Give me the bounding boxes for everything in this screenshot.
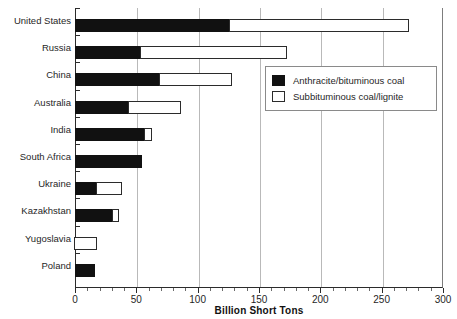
legend-entry-subbituminous: Subbituminous coal/lignite [272, 88, 430, 104]
bar-segment-anthracite [75, 19, 230, 32]
bar-segment-anthracite [75, 182, 97, 195]
x-axis-tick-major [136, 288, 137, 293]
x-axis-tick-major [75, 288, 76, 293]
y-axis-label: Yugoslavia [0, 234, 71, 244]
chart-legend: Anthracite/bituminous coal Subbituminous… [265, 66, 437, 111]
x-axis-tick-label: 250 [362, 294, 402, 305]
stacked-bar [75, 155, 142, 168]
x-axis-tick-minor [185, 288, 186, 291]
y-axis-tick [75, 171, 80, 172]
bar-row [75, 202, 443, 230]
bar-row [75, 148, 443, 176]
x-axis-tick-minor [271, 288, 272, 291]
y-axis-tick [75, 253, 80, 254]
x-axis-tick-label: 0 [55, 294, 95, 305]
bar-segment-anthracite [75, 101, 129, 114]
x-axis-tick-label: 100 [178, 294, 218, 305]
bar-row [75, 12, 443, 40]
bar-segment-anthracite [75, 73, 160, 86]
bar-segment-anthracite [75, 128, 145, 141]
y-axis-label: China [0, 70, 71, 80]
stacked-bar [75, 19, 409, 32]
x-axis-tick-minor [222, 288, 223, 291]
bar-row [75, 39, 443, 67]
x-axis-tick-minor [357, 288, 358, 291]
stacked-bar [75, 209, 119, 222]
stacked-bar [75, 237, 97, 250]
x-axis-tick-minor [345, 288, 346, 291]
y-axis-tick [75, 62, 80, 63]
x-axis-tick-minor [112, 288, 113, 291]
x-axis-tick-minor [394, 288, 395, 291]
bar-segment-anthracite [75, 264, 95, 277]
y-axis-tick [75, 198, 80, 199]
legend-swatch-anthracite-icon [272, 75, 285, 86]
x-axis-tick-label: 300 [423, 294, 457, 305]
x-axis-tick-major [198, 288, 199, 293]
bar-segment-subbituminous [140, 46, 287, 59]
stacked-bar [75, 128, 152, 141]
x-axis-tick-minor [100, 288, 101, 291]
x-axis-tick-minor [296, 288, 297, 291]
y-axis-label: Kazakhstan [0, 206, 71, 216]
bar-row [75, 230, 443, 258]
bar-segment-subbituminous [128, 101, 181, 114]
bar-segment-subbituminous [112, 209, 119, 222]
legend-entry-anthracite: Anthracite/bituminous coal [272, 72, 430, 88]
bar-row [75, 121, 443, 149]
x-axis-tick-major [320, 288, 321, 293]
y-axis-tick [75, 226, 80, 227]
y-axis-label: United States [0, 16, 71, 26]
y-axis-tick [75, 35, 80, 36]
x-axis-title: Billion Short Tons [75, 305, 443, 316]
legend-label-anthracite: Anthracite/bituminous coal [293, 75, 404, 86]
legend-swatch-subbituminous-icon [272, 91, 285, 102]
x-axis-tick-minor [161, 288, 162, 291]
x-axis-tick-label: 150 [239, 294, 279, 305]
x-axis-tick-minor [210, 288, 211, 291]
stacked-bar [75, 46, 287, 59]
y-axis-label: Ukraine [0, 179, 71, 189]
y-axis-label: Russia [0, 43, 71, 53]
bar-segment-anthracite [75, 209, 113, 222]
bar-row [75, 175, 443, 203]
y-axis-tick [75, 144, 80, 145]
stacked-bar [75, 101, 181, 114]
x-axis-tick-major [443, 288, 444, 293]
x-axis-tick-minor [369, 288, 370, 291]
legend-label-subbituminous: Subbituminous coal/lignite [293, 91, 403, 102]
stacked-bar [75, 264, 95, 277]
x-axis-tick-label: 200 [300, 294, 340, 305]
x-axis-tick-minor [431, 288, 432, 291]
x-axis-tick-minor [406, 288, 407, 291]
bar-segment-anthracite [75, 155, 142, 168]
bar-segment-subbituminous [74, 237, 97, 250]
stacked-bar [75, 182, 122, 195]
x-axis-tick-minor [284, 288, 285, 291]
x-axis-tick-label: 50 [116, 294, 156, 305]
y-axis-label: Australia [0, 98, 71, 108]
bar-rows [75, 8, 443, 288]
y-axis-label: South Africa [0, 152, 71, 162]
bar-segment-subbituminous [144, 128, 153, 141]
x-axis-tick-minor [124, 288, 125, 291]
x-axis-tick-major [259, 288, 260, 293]
x-axis-tick-minor [418, 288, 419, 291]
x-axis-tick-minor [333, 288, 334, 291]
y-axis-tick [75, 90, 80, 91]
bar-segment-subbituminous [159, 73, 233, 86]
y-axis-label: Poland [0, 261, 71, 271]
bar-segment-anthracite [75, 46, 141, 59]
y-axis-tick [75, 117, 80, 118]
x-axis-tick-minor [234, 288, 235, 291]
x-axis-tick-minor [247, 288, 248, 291]
y-axis-label: India [0, 125, 71, 135]
stacked-bar [75, 73, 232, 86]
x-axis-tick-minor [87, 288, 88, 291]
x-axis-tick-minor [173, 288, 174, 291]
x-axis-tick-major [382, 288, 383, 293]
bar-segment-subbituminous [96, 182, 122, 195]
y-axis-tick [75, 8, 80, 9]
x-axis-tick-minor [149, 288, 150, 291]
coal-reserves-bar-chart: United StatesRussiaChinaAustraliaIndiaSo… [0, 0, 457, 319]
